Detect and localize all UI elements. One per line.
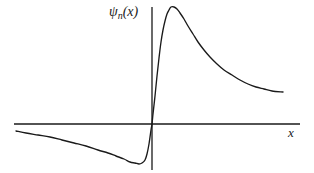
- y-axis-label-symbol: ψ: [109, 4, 118, 19]
- plot-canvas: [0, 0, 314, 173]
- y-axis-label-suffix: (x): [123, 4, 139, 19]
- wavefunction-figure: ψn(x) x: [0, 0, 314, 173]
- y-axis-label: ψn(x): [109, 5, 138, 21]
- wavefunction-curve: [16, 7, 283, 164]
- x-axis-label: x: [288, 126, 294, 139]
